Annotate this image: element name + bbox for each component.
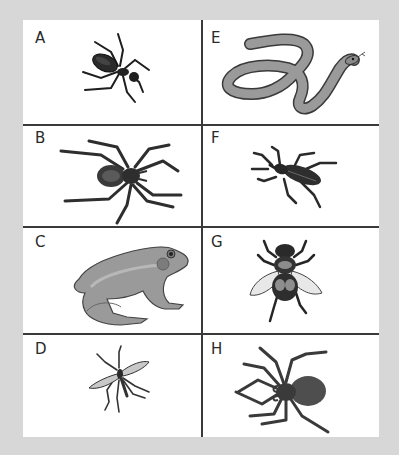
- cell-a: A: [23, 20, 201, 124]
- cell-h: H: [202, 334, 379, 437]
- cell-b: B: [23, 125, 201, 226]
- beetle-illustration: [202, 125, 379, 226]
- ant-illustration: [23, 20, 201, 124]
- cell-g: G: [202, 227, 379, 333]
- spider-illustration-h: [202, 334, 379, 437]
- cell-f: F: [202, 125, 379, 226]
- fly-illustration: [202, 227, 379, 333]
- cell-e: E: [202, 20, 379, 124]
- snake-illustration: [202, 20, 379, 124]
- spider-illustration: [23, 125, 201, 226]
- frog-illustration: [23, 227, 201, 333]
- mosquito-illustration: [23, 334, 201, 437]
- cell-d: D: [23, 334, 201, 437]
- animal-grid-panel: A E B: [23, 20, 379, 437]
- cell-c: C: [23, 227, 201, 333]
